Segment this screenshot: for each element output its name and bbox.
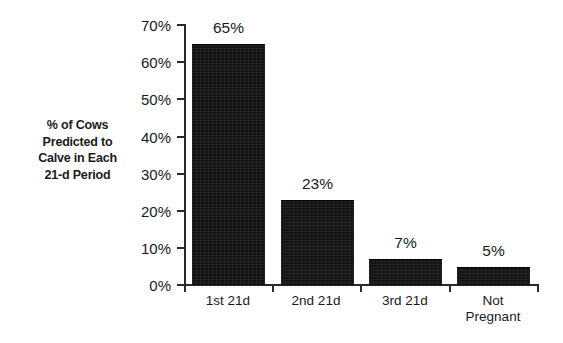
x-category-label-3rd-21d-line-1: 3rd 21d <box>365 293 445 309</box>
y-axis-title-line-4: 21-d Period <box>20 167 135 184</box>
y-tick-label-60: 60% <box>119 55 171 70</box>
x-tick-mark-1 <box>272 284 274 292</box>
y-tick-mark-40 <box>177 136 185 138</box>
y-axis-title-line-1: % of Cows <box>20 117 135 134</box>
x-tick-mark-0 <box>184 284 186 292</box>
y-tick-mark-20 <box>177 210 185 212</box>
y-tick-mark-10 <box>177 247 185 249</box>
y-tick-label-0: 0% <box>119 278 171 293</box>
y-axis-title: % of Cows Predicted to Calve in Each 21-… <box>20 117 135 183</box>
y-tick-mark-30 <box>177 173 185 175</box>
bar-not-pregnant <box>457 267 530 286</box>
y-axis-title-line-3: Calve in Each <box>20 150 135 167</box>
y-tick-label-50: 50% <box>119 92 171 107</box>
y-tick-mark-60 <box>177 61 185 63</box>
bar-2nd-21d <box>281 200 354 286</box>
y-tick-mark-70 <box>177 24 185 26</box>
x-category-label-3rd-21d: 3rd 21d <box>365 293 445 309</box>
x-tick-mark-4 <box>537 284 539 292</box>
bar-value-2nd-21d: 23% <box>281 176 354 192</box>
x-category-label-2nd-21d-line-1: 2nd 21d <box>276 293 356 309</box>
y-tick-label-40: 40% <box>119 130 171 145</box>
x-category-label-not-pregnant-line-2: Pregnant <box>453 309 533 325</box>
y-tick-label-10: 10% <box>119 241 171 256</box>
bar-value-1st-21d: 65% <box>192 20 265 36</box>
y-tick-label-70: 70% <box>119 18 171 33</box>
x-category-label-2nd-21d: 2nd 21d <box>276 293 356 309</box>
bar-value-3rd-21d: 7% <box>369 235 442 251</box>
x-category-label-1st-21d: 1st 21d <box>188 293 268 309</box>
x-category-label-not-pregnant-line-1: Not <box>453 293 533 309</box>
bar-value-not-pregnant: 5% <box>457 243 530 259</box>
x-tick-mark-2 <box>360 284 362 292</box>
y-axis-title-line-2: Predicted to <box>20 134 135 151</box>
x-category-label-not-pregnant: Not Pregnant <box>453 293 533 325</box>
y-tick-mark-50 <box>177 98 185 100</box>
bar-1st-21d <box>192 44 265 286</box>
x-tick-mark-3 <box>449 284 451 292</box>
x-category-label-1st-21d-line-1: 1st 21d <box>188 293 268 309</box>
y-tick-label-20: 20% <box>119 204 171 219</box>
y-tick-label-30: 30% <box>119 167 171 182</box>
bar-chart-figure: % of Cows Predicted to Calve in Each 21-… <box>0 0 563 343</box>
bar-3rd-21d <box>369 259 442 286</box>
